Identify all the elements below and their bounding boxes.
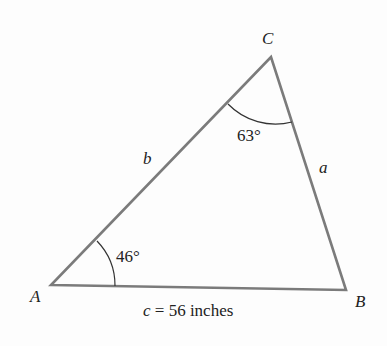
angle-label-a: 46° (116, 248, 140, 265)
side-label-c: c = 56 inches (143, 302, 233, 319)
side-label-b: b (143, 150, 152, 167)
angle-arc-a (97, 241, 115, 286)
side-c-value: = 56 inches (151, 301, 234, 320)
side-label-a: a (319, 159, 328, 176)
angle-arc-c (228, 104, 292, 124)
triangle-abc (51, 57, 346, 290)
side-c-variable: c (143, 301, 151, 320)
angle-label-c: 63° (237, 127, 261, 144)
triangle-figure (0, 0, 387, 346)
vertex-label-a: A (30, 288, 40, 305)
vertex-label-c: C (262, 30, 273, 47)
triangle-diagram: C A B b a c = 56 inches 46° 63° (0, 0, 387, 346)
vertex-label-b: B (355, 293, 365, 310)
